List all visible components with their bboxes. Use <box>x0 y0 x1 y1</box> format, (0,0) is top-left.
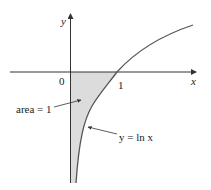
tick-one-label: 1 <box>118 79 124 91</box>
curve-pointer <box>88 127 117 134</box>
ln-graph-figure: y x 0 1 area = 1 y = ln x <box>0 0 211 190</box>
curve-annotation: y = ln x <box>119 131 154 143</box>
x-axis-label: x <box>190 75 196 87</box>
area-annotation: area = 1 <box>16 103 52 115</box>
ln-curve <box>76 25 193 183</box>
origin-label: 0 <box>59 75 65 87</box>
y-axis-label: y <box>60 15 66 27</box>
